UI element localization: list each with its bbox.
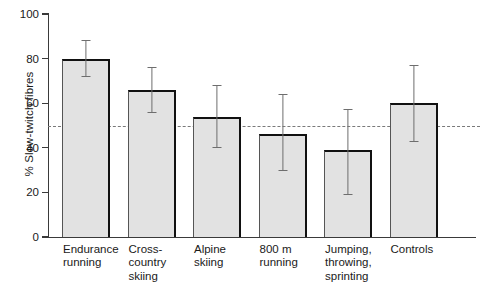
error-bar-cap-upper-5 [409,65,418,66]
x-axis-label-4: Jumping, throwing, sprinting [325,243,372,283]
x-axis-label-5: Controls [391,243,434,256]
error-bar-cap-lower-0 [82,76,91,77]
error-bar-cap-upper-2 [213,85,222,86]
error-bar-line-3 [282,94,283,170]
bar-0 [62,59,110,237]
bar-chart-figure: % Slow-twitch fibres 020406080100 Endura… [0,0,485,294]
y-tick-label-80: 80 [26,53,39,65]
y-tick-label-wrap-100: 100 [0,14,39,15]
error-bar-line-4 [347,110,348,195]
error-bar-cap-lower-5 [409,141,418,142]
error-bar-cap-upper-3 [278,94,287,95]
error-bar-line-2 [216,85,217,147]
error-bar-cap-lower-4 [344,194,353,195]
error-bar-line-1 [151,68,152,113]
x-axis-label-1: Cross- country skiing [129,243,167,283]
error-bar-cap-upper-0 [82,40,91,41]
error-bar-line-5 [413,65,414,141]
y-tick-label-100: 100 [20,8,39,20]
x-axis-label-3: 800 m running [260,243,298,270]
y-tick-label-wrap-80: 80 [0,59,39,60]
y-tick-label-0: 0 [33,231,39,243]
x-axis-label-0: Endurance running [63,243,119,270]
plot-area [48,14,476,237]
x-axis-label-2: Alpine skiing [194,243,226,270]
error-bar-cap-lower-1 [147,112,156,113]
error-bar-cap-upper-4 [344,109,353,110]
y-tick-label-wrap-20: 20 [0,192,39,193]
error-bar-cap-lower-2 [213,147,222,148]
error-bar-cap-upper-1 [147,67,156,68]
y-tick-label-60: 60 [26,97,39,109]
error-bar-cap-lower-3 [278,170,287,171]
y-tick-label-wrap-60: 60 [0,103,39,104]
y-tick-label-wrap-0: 0 [0,237,39,238]
error-bar-line-0 [85,41,86,77]
y-tick-label-20: 20 [26,186,39,198]
y-tick-label-40: 40 [26,142,39,154]
x-axis-line [48,237,476,238]
y-tick-label-wrap-40: 40 [0,148,39,149]
